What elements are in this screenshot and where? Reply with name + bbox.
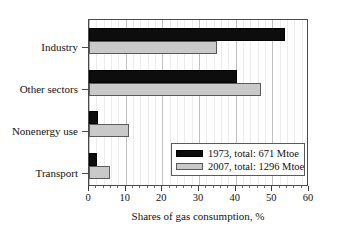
x-tick-minor bbox=[183, 186, 184, 188]
category-label-other-sectors: Other sectors bbox=[20, 83, 78, 95]
category-axis: Industry Other sectors Nonenergy use Tra… bbox=[0, 19, 84, 186]
x-tick-minor bbox=[249, 186, 250, 188]
bar-transport-2007 bbox=[89, 166, 110, 179]
x-tick-minor bbox=[110, 186, 111, 188]
x-tick-label-30: 30 bbox=[193, 192, 204, 203]
x-tick-minor bbox=[139, 186, 140, 188]
x-tick-major bbox=[161, 186, 162, 191]
legend-label-2007: 2007, total: 1296 Mtoe bbox=[208, 161, 304, 172]
x-tick-minor bbox=[154, 186, 155, 188]
x-tick-minor bbox=[301, 186, 302, 188]
x-tick-major bbox=[308, 186, 309, 191]
x-tick-minor bbox=[220, 186, 221, 188]
legend: 1973, total: 671 Mtoe 2007, total: 1296 … bbox=[171, 143, 305, 176]
bar-transport-1973 bbox=[89, 153, 97, 166]
x-tick-major bbox=[88, 186, 89, 191]
legend-entry-2007: 2007, total: 1296 Mtoe bbox=[176, 160, 300, 173]
bar-nonenergy-use-1973 bbox=[89, 111, 98, 124]
x-tick-major bbox=[235, 186, 236, 191]
x-tick-minor bbox=[257, 186, 258, 188]
x-tick-minor bbox=[132, 186, 133, 188]
bar-industry-1973 bbox=[89, 28, 285, 41]
x-tick-minor bbox=[95, 186, 96, 188]
bar-nonenergy-use-2007 bbox=[89, 124, 129, 137]
x-tick-minor bbox=[286, 186, 287, 188]
x-tick-label-60: 60 bbox=[303, 192, 314, 203]
legend-swatch-1973 bbox=[176, 150, 203, 157]
x-tick-minor bbox=[227, 186, 228, 188]
x-tick-label-40: 40 bbox=[229, 192, 240, 203]
legend-label-1973: 1973, total: 671 Mtoe bbox=[208, 148, 299, 159]
x-tick-label-20: 20 bbox=[156, 192, 167, 203]
x-axis-tick-labels: 0102030405060 bbox=[88, 192, 308, 206]
x-tick-major bbox=[198, 186, 199, 191]
x-axis-title: Shares of gas consumption, % bbox=[88, 210, 308, 222]
category-label-nonenergy-use: Nonenergy use bbox=[12, 125, 78, 137]
x-tick-minor bbox=[279, 186, 280, 188]
x-tick-minor bbox=[117, 186, 118, 188]
gas-consumption-bar-chart: Industry Other sectors Nonenergy use Tra… bbox=[0, 0, 351, 233]
x-tick-minor bbox=[103, 186, 104, 188]
legend-swatch-2007 bbox=[176, 163, 203, 170]
x-tick-minor bbox=[169, 186, 170, 188]
x-tick-label-10: 10 bbox=[119, 192, 130, 203]
x-tick-minor bbox=[213, 186, 214, 188]
category-label-industry: Industry bbox=[41, 41, 78, 53]
x-tick-minor bbox=[205, 186, 206, 188]
x-tick-major bbox=[125, 186, 126, 191]
x-tick-minor bbox=[147, 186, 148, 188]
bar-industry-2007 bbox=[89, 41, 217, 54]
x-tick-label-50: 50 bbox=[266, 192, 277, 203]
x-tick-minor bbox=[242, 186, 243, 188]
category-label-transport: Transport bbox=[36, 167, 78, 179]
x-tick-minor bbox=[176, 186, 177, 188]
x-tick-minor bbox=[191, 186, 192, 188]
x-tick-minor bbox=[293, 186, 294, 188]
bar-other-sectors-2007 bbox=[89, 83, 261, 96]
legend-entry-1973: 1973, total: 671 Mtoe bbox=[176, 147, 300, 160]
bar-other-sectors-1973 bbox=[89, 70, 237, 83]
x-tick-label-0: 0 bbox=[85, 192, 90, 203]
x-tick-major bbox=[271, 186, 272, 191]
x-tick-minor bbox=[264, 186, 265, 188]
